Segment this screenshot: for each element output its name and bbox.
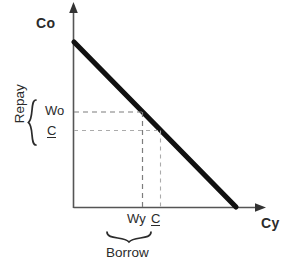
- x-tick-label-c-bar: C: [151, 212, 160, 226]
- x-axis-label: Cy: [261, 216, 280, 230]
- figure-canvas: [0, 0, 287, 267]
- budget-constraint-line: [74, 42, 236, 207]
- y-axis-label: Co: [36, 16, 55, 30]
- borrow-brace-icon: [107, 232, 151, 242]
- borrow-annotation-label: Borrow: [106, 246, 149, 260]
- repay-brace-icon: [29, 100, 37, 145]
- y-axis-arrow-icon: [69, 2, 78, 13]
- repay-annotation-label: Repay: [13, 75, 27, 133]
- x-tick-label-wy: Wy: [127, 212, 146, 225]
- x-axis-arrow-icon: [255, 203, 266, 212]
- y-tick-label-wo: Wo: [45, 104, 64, 117]
- y-tick-label-c-bar: C: [47, 124, 56, 138]
- y-axis: [69, 2, 78, 208]
- budget-constraint-figure: Co Cy Wo C Wy C Repay Borrow: [0, 0, 287, 267]
